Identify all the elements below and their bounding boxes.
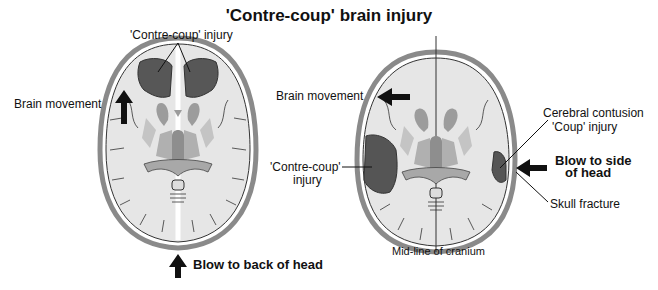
skull-fracture-label: Skull fracture — [550, 197, 620, 211]
contusion-label-1: Cerebral contusion — [543, 106, 644, 120]
right-brain-illustration — [342, 36, 548, 252]
midline-label: Mid-line of cranium — [392, 245, 485, 257]
blow-arrow-right — [516, 159, 547, 177]
left-brain-illustration — [100, 38, 256, 278]
left-blow-label: Blow to back of head — [193, 257, 323, 272]
left-contrecoup-label: 'Contre-coup' injury — [130, 28, 233, 42]
right-contrecoup-label-2: injury — [293, 173, 322, 187]
blow-arrow-left — [169, 254, 187, 278]
right-contrecoup-label-1: 'Contre-coup' — [270, 160, 341, 174]
blow-side-label-2: of head — [565, 165, 611, 180]
left-brain-movement-label: Brain movement — [14, 97, 101, 111]
contusion-label-2: 'Coup' injury — [552, 120, 617, 134]
right-brain-movement-label: Brain movement — [276, 89, 363, 103]
brain-diagrams — [0, 0, 658, 290]
contrecoup-injury — [364, 135, 397, 193]
